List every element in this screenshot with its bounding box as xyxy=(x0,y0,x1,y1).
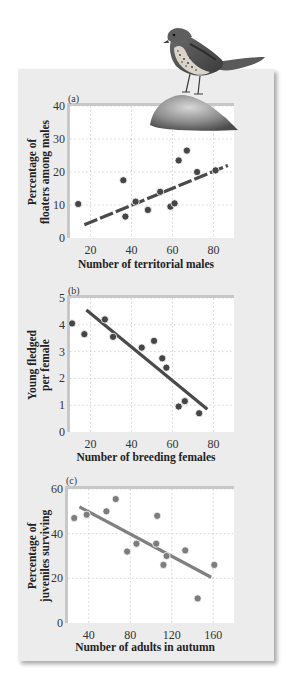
x-axis-title: Number of territorial males xyxy=(78,258,215,270)
y-tick-label: 40 xyxy=(51,527,63,541)
panel-label: (a) xyxy=(68,93,79,105)
y-axis-title: juveniles surviving xyxy=(39,510,52,604)
data-point xyxy=(75,200,82,207)
x-tick-label: 80 xyxy=(124,628,136,642)
y-tick-label: 5 xyxy=(59,291,65,305)
data-point xyxy=(103,508,110,515)
y-axis-title: floaters among males xyxy=(39,119,52,224)
x-tick-label: 20 xyxy=(85,243,97,257)
data-point xyxy=(175,403,182,410)
data-point xyxy=(68,320,75,327)
data-point xyxy=(132,198,139,205)
x-tick-label: 20 xyxy=(85,437,97,451)
data-point xyxy=(211,561,218,568)
y-tick-label: 20 xyxy=(53,165,65,179)
x-tick-label: 120 xyxy=(163,628,181,642)
x-axis-title: Number of adults in autumn xyxy=(75,641,215,653)
data-point xyxy=(183,147,190,154)
data-point xyxy=(153,540,160,547)
y-axis-bar xyxy=(65,489,68,623)
panel-label: (b) xyxy=(68,285,80,297)
data-point xyxy=(194,595,201,602)
data-point xyxy=(163,552,170,559)
y-tick-label: 4 xyxy=(59,318,65,332)
data-point xyxy=(124,548,131,555)
data-point xyxy=(133,540,140,547)
bird-eye xyxy=(173,34,176,37)
x-tick-label: 60 xyxy=(167,243,179,257)
plot-area xyxy=(68,489,234,623)
data-point xyxy=(194,168,201,175)
x-tick-label: 80 xyxy=(208,243,220,257)
y-axis-title: Young fledged xyxy=(26,329,39,400)
y-tick-label: 0 xyxy=(59,231,65,245)
y-axis-title: Percentage of xyxy=(26,139,39,206)
y-axis-title: per female xyxy=(39,339,52,391)
data-point xyxy=(154,512,161,519)
y-tick-label: 0 xyxy=(59,425,65,439)
y-tick-label: 0 xyxy=(57,616,63,630)
y-axis-bar xyxy=(67,106,70,238)
data-point xyxy=(175,157,182,164)
data-point xyxy=(112,495,119,502)
data-point xyxy=(181,398,188,405)
data-point xyxy=(101,316,108,323)
y-tick-label: 10 xyxy=(53,198,65,212)
x-axis-title: Number of breeding females xyxy=(76,451,216,464)
x-tick-label: 80 xyxy=(208,437,220,451)
y-tick-label: 1 xyxy=(59,398,65,412)
y-tick-label: 60 xyxy=(51,482,63,496)
figure-canvas: 20406080010203040(a)Number of territoria… xyxy=(0,0,286,697)
x-tick-label: 60 xyxy=(167,437,179,451)
data-point xyxy=(144,206,151,213)
top-axis-bar xyxy=(65,486,234,489)
data-point xyxy=(196,410,203,417)
data-point xyxy=(81,331,88,338)
y-tick-label: 30 xyxy=(53,132,65,146)
x-tick-label: 40 xyxy=(126,243,138,257)
data-point xyxy=(83,511,90,518)
top-axis-bar xyxy=(67,295,234,298)
data-point xyxy=(157,188,164,195)
data-point xyxy=(71,514,78,521)
bird-beak xyxy=(163,40,169,43)
y-axis-bar xyxy=(67,298,70,432)
y-axis-title: Percentage of xyxy=(26,523,39,590)
data-point xyxy=(159,355,166,362)
data-point xyxy=(182,547,189,554)
y-tick-label: 2 xyxy=(59,371,65,385)
data-point xyxy=(171,200,178,207)
data-point xyxy=(212,167,219,174)
y-tick-label: 20 xyxy=(51,571,63,585)
x-tick-label: 40 xyxy=(83,628,95,642)
y-tick-label: 40 xyxy=(53,99,65,113)
data-point xyxy=(109,333,116,340)
x-tick-label: 160 xyxy=(204,628,222,642)
x-tick-label: 40 xyxy=(126,437,138,451)
data-point xyxy=(160,561,167,568)
data-point xyxy=(120,177,127,184)
panel-label: (c) xyxy=(66,475,77,487)
y-tick-label: 3 xyxy=(59,345,65,359)
data-point xyxy=(122,213,129,220)
data-point xyxy=(150,337,157,344)
data-point xyxy=(138,344,145,351)
data-point xyxy=(163,364,170,371)
